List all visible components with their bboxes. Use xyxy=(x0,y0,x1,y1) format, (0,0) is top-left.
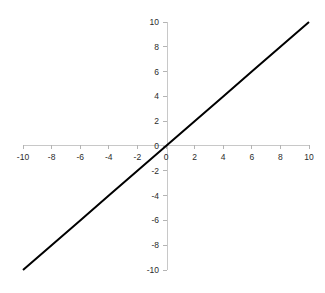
chart-background xyxy=(0,0,325,293)
x-tick-label: 8 xyxy=(278,152,283,162)
chart-container: -10-8-6-4-20246810 -10-8-6-4-20246810 xyxy=(0,0,325,293)
x-tick-label: -2 xyxy=(134,152,142,162)
y-tick-label: 4 xyxy=(154,91,159,101)
y-tick-label: 8 xyxy=(154,42,159,52)
y-tick-label: -10 xyxy=(147,265,160,275)
x-tick-label: 4 xyxy=(221,152,226,162)
x-tick-label: -8 xyxy=(48,152,56,162)
y-tick-label: 6 xyxy=(154,67,159,77)
line-chart: -10-8-6-4-20246810 -10-8-6-4-20246810 xyxy=(0,0,325,293)
y-tick-label: -4 xyxy=(151,191,159,201)
x-tick-label: 0 xyxy=(164,152,169,162)
y-tick-label: 0 xyxy=(154,141,159,151)
x-tick-label: -4 xyxy=(105,152,113,162)
y-tick-label: -6 xyxy=(151,215,159,225)
x-tick-label: -6 xyxy=(76,152,84,162)
x-tick-label: 2 xyxy=(192,152,197,162)
y-tick-label: 2 xyxy=(154,116,159,126)
x-tick-label: 10 xyxy=(304,152,314,162)
x-tick-label: -10 xyxy=(17,152,30,162)
y-tick-label: -2 xyxy=(151,166,159,176)
x-tick-label: 6 xyxy=(249,152,254,162)
y-tick-label: 10 xyxy=(150,17,160,27)
y-tick-label: -8 xyxy=(151,240,159,250)
